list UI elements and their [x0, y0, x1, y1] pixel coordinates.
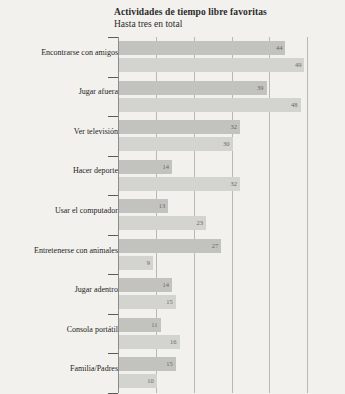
category-label: Entretenerse con animales — [6, 246, 118, 256]
category-tick — [108, 116, 118, 117]
bar-value-label: 13 — [159, 203, 166, 210]
bar: 49 — [119, 58, 304, 72]
bar-row: 27 — [119, 239, 345, 253]
bar: 14 — [119, 160, 172, 174]
title-block: Actividades de tiempo libre favoritas Ha… — [114, 6, 267, 30]
bar-row: 9 — [119, 256, 345, 270]
bar: 48 — [119, 98, 301, 112]
bar-group: 1415 — [118, 274, 345, 314]
bar-value-label: 23 — [197, 220, 204, 227]
bar-group: 3230 — [118, 116, 345, 156]
category-label: Jugar adentro — [6, 285, 118, 295]
bar: 16 — [119, 335, 180, 349]
bar-group: 1116 — [118, 314, 345, 354]
bar-row: 39 — [119, 81, 345, 95]
bar-rows: 44493948323014321323279141511161510 — [118, 37, 345, 393]
category-label: Ver televisión — [6, 127, 118, 137]
bar-group: 1510 — [118, 353, 345, 393]
bar-row: 14 — [119, 278, 345, 292]
bar: 11 — [119, 318, 161, 332]
category-label: Consola portátil — [6, 325, 118, 335]
bar-value-label: 16 — [170, 339, 177, 346]
category-tick — [108, 195, 118, 196]
bar-row: 15 — [119, 357, 345, 371]
bar-row: 32 — [119, 120, 345, 134]
category-axis: Encontrarse con amigosJugar afueraVer te… — [0, 37, 118, 393]
bar-value-label: 30 — [223, 141, 230, 148]
category-label: Usar el computador — [6, 206, 118, 216]
category-tick — [108, 353, 118, 354]
plot-area: 44493948323014321323279141511161510 — [118, 37, 345, 393]
category-tick — [108, 274, 118, 275]
bar-value-label: 39 — [257, 84, 264, 91]
bar-value-label: 32 — [231, 124, 238, 131]
category-tick — [108, 314, 118, 315]
bar-value-label: 27 — [212, 243, 219, 250]
bar-group: 1323 — [118, 195, 345, 235]
bar-row: 11 — [119, 318, 345, 332]
category-tick — [108, 235, 118, 236]
bar-row: 16 — [119, 335, 345, 349]
bar-value-label: 48 — [291, 101, 298, 108]
bar-group: 4449 — [118, 37, 345, 77]
category-label: Hacer deporte — [6, 166, 118, 176]
bar: 15 — [119, 295, 176, 309]
category-tick — [108, 77, 118, 78]
category-tick — [108, 37, 118, 38]
bar: 39 — [119, 81, 267, 95]
bar-value-label: 14 — [162, 282, 169, 289]
bar: 32 — [119, 177, 240, 191]
bar: 13 — [119, 199, 168, 213]
bar: 14 — [119, 278, 172, 292]
bar-row: 32 — [119, 177, 345, 191]
bar-group: 3948 — [118, 77, 345, 117]
bar: 30 — [119, 137, 233, 151]
bar-value-label: 15 — [166, 361, 173, 368]
category-label: Jugar afuera — [6, 87, 118, 97]
bar-row: 30 — [119, 137, 345, 151]
bar: 23 — [119, 216, 206, 230]
bar-row: 10 — [119, 374, 345, 388]
bar-value-label: 11 — [151, 322, 157, 329]
bar-value-label: 14 — [162, 163, 169, 170]
bar-value-label: 10 — [147, 378, 154, 385]
bar: 44 — [119, 41, 285, 55]
bar-row: 44 — [119, 41, 345, 55]
category-tick — [108, 156, 118, 157]
bar-group: 279 — [118, 235, 345, 275]
category-label: Encontrarse con amigos — [6, 48, 118, 58]
bar-row: 14 — [119, 160, 345, 174]
bar: 10 — [119, 374, 157, 388]
bar-value-label: 49 — [295, 62, 302, 69]
bar-row: 49 — [119, 58, 345, 72]
page-title: Actividades de tiempo libre favoritas — [114, 6, 267, 18]
bar-group: 1432 — [118, 156, 345, 196]
bar-row: 15 — [119, 295, 345, 309]
bar-row: 13 — [119, 199, 345, 213]
bar-value-label: 32 — [231, 180, 238, 187]
bar-row: 48 — [119, 98, 345, 112]
bar: 15 — [119, 357, 176, 371]
bar: 27 — [119, 239, 221, 253]
bar-value-label: 44 — [276, 45, 283, 52]
bar-value-label: 9 — [147, 260, 150, 267]
bar-value-label: 15 — [166, 299, 173, 306]
bar: 32 — [119, 120, 240, 134]
chart-subtitle: Hasta tres en total — [114, 18, 267, 30]
bar-row: 23 — [119, 216, 345, 230]
category-label: Familia/Padres — [6, 364, 118, 374]
bar: 9 — [119, 256, 153, 270]
